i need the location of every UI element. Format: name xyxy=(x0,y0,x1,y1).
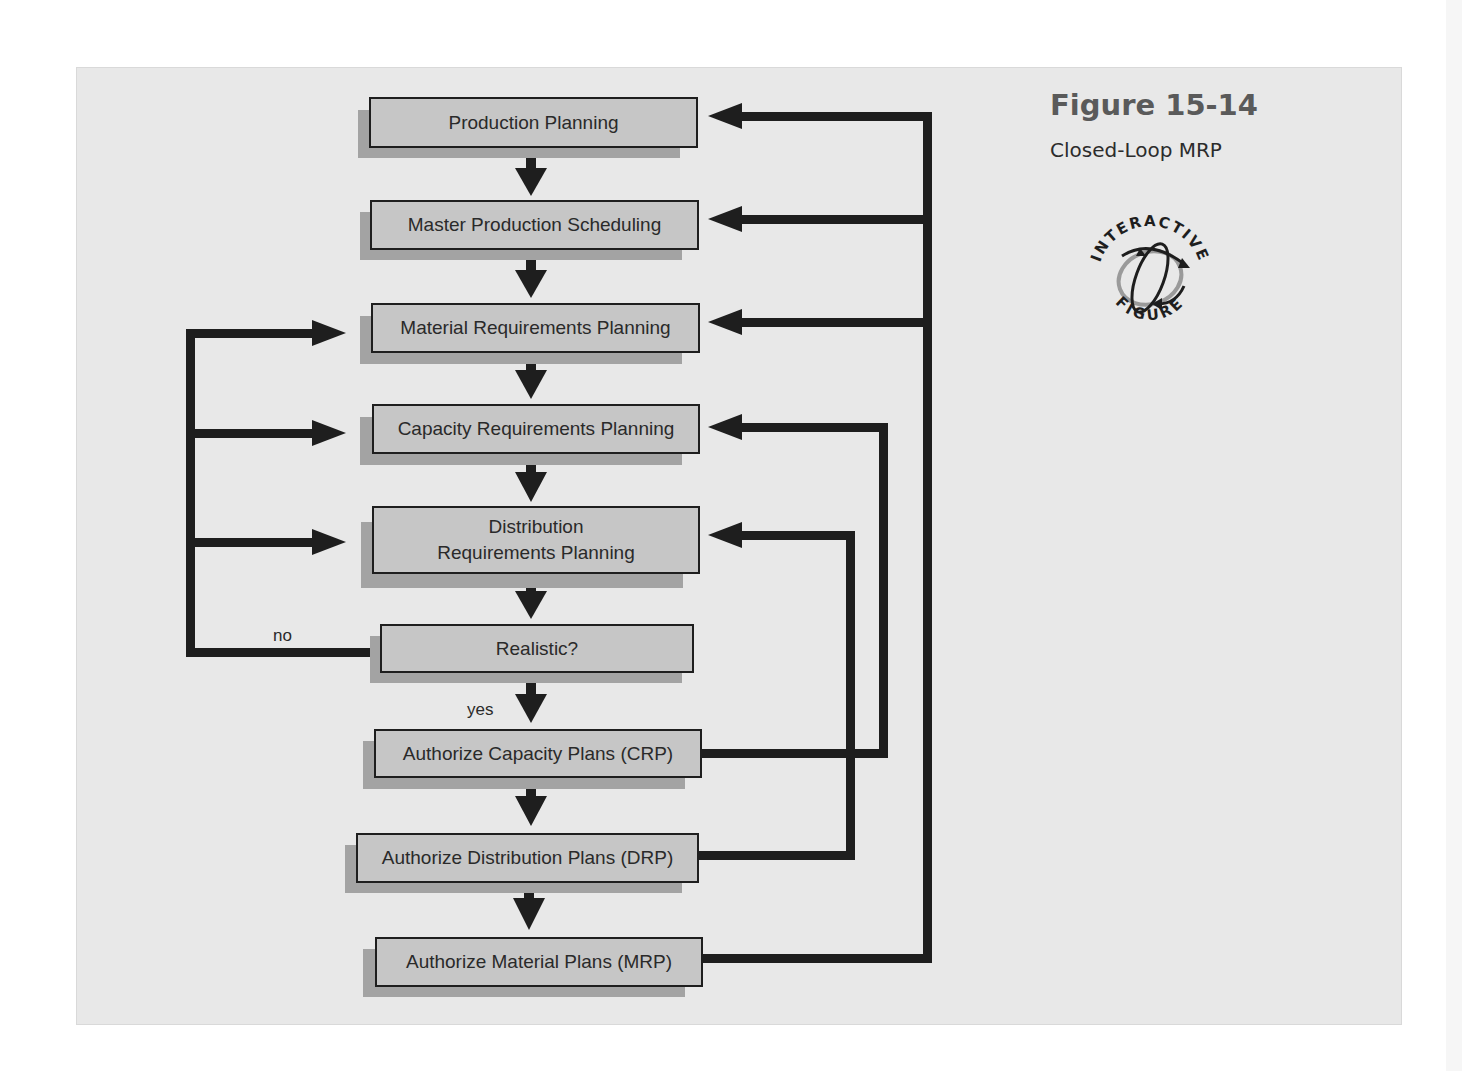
realistic-box: Realistic? xyxy=(380,624,694,673)
node-label: Authorize Distribution Plans (DRP) xyxy=(382,845,673,871)
authorize-capacity-plans-box: Authorize Capacity Plans (CRP) xyxy=(374,729,702,778)
node-label-line1: Distribution xyxy=(488,514,583,540)
node-label: Master Production Scheduling xyxy=(408,212,661,238)
authorize-distribution-plans-box: Authorize Distribution Plans (DRP) xyxy=(356,833,699,883)
production-planning-box: Production Planning xyxy=(369,97,698,148)
node-label: Authorize Material Plans (MRP) xyxy=(406,949,672,975)
figure-number: Figure 15-14 xyxy=(1050,88,1258,122)
page-edge xyxy=(1446,0,1462,1071)
node-label: Realistic? xyxy=(496,636,578,662)
node-label-line2: Requirements Planning xyxy=(437,540,635,566)
interactive-figure-badge[interactable]: INTERACTIVE FIGURE xyxy=(1080,208,1220,333)
node-label: Capacity Requirements Planning xyxy=(398,416,675,442)
master-production-scheduling-box: Master Production Scheduling xyxy=(370,200,699,250)
edge-label-no: no xyxy=(273,626,292,646)
figure-title: Closed-Loop MRP xyxy=(1050,138,1222,162)
node-label: Authorize Capacity Plans (CRP) xyxy=(403,741,673,767)
capacity-requirements-planning-box: Capacity Requirements Planning xyxy=(372,404,700,454)
distribution-requirements-planning-box: Distribution Requirements Planning xyxy=(372,506,700,574)
authorize-material-plans-box: Authorize Material Plans (MRP) xyxy=(375,937,703,987)
material-requirements-planning-box: Material Requirements Planning xyxy=(371,303,700,353)
node-label: Production Planning xyxy=(448,110,618,136)
node-label: Material Requirements Planning xyxy=(400,315,670,341)
svg-text:INTERACTIVE: INTERACTIVE xyxy=(1087,212,1213,264)
svg-text:FIGURE: FIGURE xyxy=(1112,293,1188,324)
edge-label-yes: yes xyxy=(467,700,493,720)
